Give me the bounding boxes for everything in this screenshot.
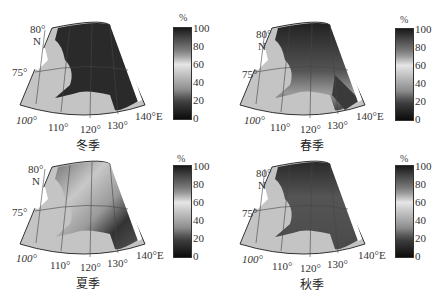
lon-130-label: 130° <box>327 119 348 131</box>
cbar-tick-40: 40 <box>415 77 426 89</box>
lat-80-label: 80° <box>256 28 271 40</box>
colorbar-unit: % <box>400 153 408 164</box>
cbar-tick-20: 20 <box>415 232 426 244</box>
cbar-tick-80: 80 <box>193 40 204 52</box>
colorbar <box>173 27 192 120</box>
cbar-tick-80: 80 <box>415 178 426 190</box>
lon-110-label: 110° <box>272 260 293 272</box>
cbar-tick-40: 40 <box>193 76 204 88</box>
lon-130-label: 130° <box>327 258 348 270</box>
lat-n-label: N <box>33 35 41 47</box>
cbar-tick-20: 20 <box>415 95 426 107</box>
lon-140-label: 140°E <box>136 249 164 261</box>
lon-130-label: 130° <box>107 119 128 131</box>
lon-120-label: 120° <box>300 262 321 274</box>
colorbar-unit: % <box>179 12 187 23</box>
lon-140-label: 140°E <box>135 110 163 122</box>
lat-75-label: 75° <box>242 207 257 219</box>
map-spring <box>220 0 380 125</box>
lon-110-label: 110° <box>48 121 69 133</box>
cbar-tick-40: 40 <box>415 214 426 226</box>
cbar-tick-100: 100 <box>415 23 432 35</box>
colorbar-unit: % <box>177 153 185 164</box>
colorbar-unit: % <box>400 14 408 25</box>
lat-75-label: 75° <box>12 206 27 218</box>
lat-n-label: N <box>32 175 40 187</box>
cbar-tick-60: 60 <box>193 196 204 208</box>
cbar-tick-80: 80 <box>415 41 426 53</box>
lon-140-label: 140°E <box>358 249 386 261</box>
lon-100-label: 100° <box>16 114 37 126</box>
lon-120-label: 120° <box>80 123 101 135</box>
lon-110-label: 110° <box>50 259 71 271</box>
cbar-tick-0: 0 <box>415 250 421 262</box>
lon-120-label: 120° <box>80 261 101 273</box>
cbar-tick-60: 60 <box>415 196 426 208</box>
panel-winter: 80° N 75° 100° 110° 120° 130° 140°E 冬季 %… <box>0 0 220 149</box>
lat-80-label: 80° <box>28 163 43 175</box>
cbar-tick-60: 60 <box>193 58 204 70</box>
cbar-tick-20: 20 <box>193 94 204 106</box>
lon-130-label: 130° <box>107 257 128 269</box>
lon-120-label: 120° <box>300 123 321 135</box>
cbar-tick-100: 100 <box>193 22 210 34</box>
cbar-tick-100: 100 <box>193 160 210 172</box>
lat-75-label: 75° <box>12 66 27 78</box>
cbar-tick-0: 0 <box>193 112 199 124</box>
panel-spring: 80° N 75° 100° 110° 120° 130° 140°E 春季 %… <box>220 0 440 149</box>
lon-140-label: 140°E <box>356 110 384 122</box>
lat-75-label: 75° <box>242 68 257 80</box>
cbar-tick-0: 0 <box>415 113 421 125</box>
lon-100-label: 100° <box>242 253 263 265</box>
cbar-tick-100: 100 <box>415 160 432 172</box>
colorbar <box>395 165 414 258</box>
season-label: 秋季 <box>300 275 324 292</box>
season-label: 夏季 <box>76 274 100 291</box>
panel-autumn: 80° N 75° 100° 110° 120° 130° 140°E 秋季 %… <box>220 149 440 298</box>
lon-100-label: 100° <box>244 114 265 126</box>
lat-80-label: 80° <box>256 167 271 179</box>
lon-110-label: 110° <box>270 121 291 133</box>
cbar-tick-80: 80 <box>193 178 204 190</box>
cbar-tick-40: 40 <box>193 214 204 226</box>
cbar-tick-60: 60 <box>415 59 426 71</box>
map-winter <box>0 0 160 125</box>
lon-100-label: 100° <box>16 252 37 264</box>
lat-n-label: N <box>258 179 266 191</box>
lat-80-label: 80° <box>30 23 45 35</box>
cbar-tick-0: 0 <box>193 250 199 262</box>
colorbar <box>395 28 414 121</box>
cbar-tick-20: 20 <box>193 232 204 244</box>
colorbar <box>173 165 192 258</box>
lat-n-label: N <box>258 40 266 52</box>
panel-summer: 80° N 75° 100° 110° 120° 130° 140°E 夏季 %… <box>0 149 220 298</box>
